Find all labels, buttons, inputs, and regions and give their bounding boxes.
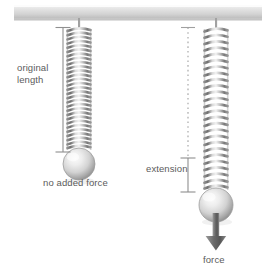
original-length-reference-dashed-line	[181, 28, 195, 159]
spring-extension-diagram: original length no added force extension…	[0, 0, 270, 273]
original-length-label-line2: length	[17, 74, 48, 86]
loaded-spring	[204, 28, 229, 192]
loaded-spring-assembly	[181, 18, 234, 251]
original-length-label-line1: original	[17, 62, 48, 74]
no-added-force-label: no added force	[43, 177, 108, 189]
unloaded-spring-assembly	[56, 18, 96, 184]
extension-label: extension	[146, 163, 188, 175]
diagram-canvas	[0, 0, 270, 273]
original-length-label: original length	[17, 62, 48, 85]
unloaded-spring	[67, 28, 92, 152]
ceiling-support-bar	[14, 5, 262, 20]
force-label: force	[203, 254, 225, 266]
